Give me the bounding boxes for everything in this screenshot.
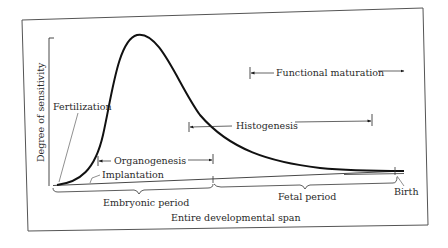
- frame-border: [22, 8, 428, 231]
- embryonic-period-label: Embryonic period: [103, 197, 189, 208]
- entire-span-label: Entire developmental span: [171, 212, 301, 223]
- implantation-label: Implantation: [102, 169, 164, 180]
- functional-maturation-label: Functional maturation: [276, 67, 384, 78]
- birth-label: Birth: [394, 186, 419, 197]
- fetal-period-label: Fetal period: [278, 191, 336, 202]
- implantation-pointer: [90, 175, 100, 183]
- fetal-period-brace: [214, 177, 397, 189]
- birth-marker: [395, 167, 404, 186]
- y-axis: [49, 38, 54, 186]
- y-axis-label: Degree of sensitivity: [35, 62, 46, 162]
- embryonic-period-brace: [53, 184, 213, 194]
- organogenesis-label: Organogenesis: [114, 155, 186, 166]
- fertilization-pointer: [59, 113, 78, 182]
- fertilization-label: Fertilization: [53, 101, 112, 112]
- sensitivity-diagram: Degree of sensitivity Fertilization Impl…: [0, 0, 448, 248]
- histogenesis-label: Histogenesis: [236, 120, 298, 131]
